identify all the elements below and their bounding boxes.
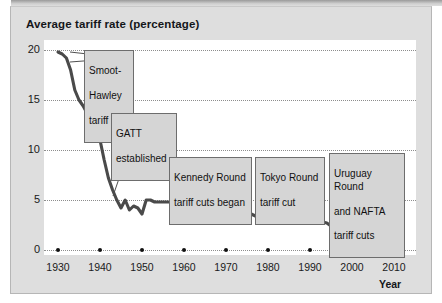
x-axis-title: Year: [379, 278, 401, 290]
annotation-line-2: and NAFTA: [334, 206, 400, 218]
annotation-line-3: tariff cuts: [334, 230, 400, 242]
x-tick-label-2010: 2010: [372, 261, 416, 273]
x-tick-label-1950: 1950: [120, 261, 164, 273]
x-tick-dot-1970: [224, 248, 228, 252]
annotation-kennedy-round[interactable]: Kennedy Round tariff cuts began: [169, 157, 252, 225]
page-title: Average tariff rate (percentage): [26, 18, 199, 30]
y-tick-label-15: 15: [10, 93, 40, 105]
x-tick-label-1940: 1940: [78, 261, 122, 273]
x-tick-label-2000: 2000: [330, 261, 374, 273]
y-tick-label-10: 10: [10, 143, 40, 155]
annotation-uruguay-nafta[interactable]: Uruguay Round and NAFTA tariff cuts: [329, 153, 405, 258]
annotation-line-1: Uruguay Round: [334, 168, 400, 193]
gridline-10: [44, 150, 416, 151]
x-tick-label-1960: 1960: [162, 261, 206, 273]
annotation-tokyo-round[interactable]: Tokyo Round tariff cut: [255, 157, 325, 225]
annotation-line-1: Kennedy Round: [174, 172, 247, 184]
figure: Average tariff rate (percentage) 20 15 1…: [0, 0, 442, 303]
x-tick-dot-1990: [308, 248, 312, 252]
x-tick-label-1970: 1970: [204, 261, 248, 273]
annotation-line-1: Tokyo Round: [260, 172, 320, 184]
x-tick-dot-1940: [98, 248, 102, 252]
x-tick-label-1980: 1980: [246, 261, 290, 273]
x-tick-dot-1980: [266, 248, 270, 252]
y-tick-label-0: 0: [10, 243, 40, 255]
annotation-line-2: established: [116, 153, 172, 165]
x-tick-label-1930: 1930: [36, 261, 80, 273]
y-tick-label-5: 5: [10, 193, 40, 205]
annotation-line-2: Hawley: [89, 90, 129, 102]
x-tick-dot-1960: [182, 248, 186, 252]
annotation-gatt-established[interactable]: GATT established: [111, 113, 177, 181]
x-tick-label-1990: 1990: [288, 261, 332, 273]
annotation-line-1: GATT: [116, 128, 172, 140]
annotation-line-2: tariff cut: [260, 197, 320, 209]
y-tick-label-20: 20: [10, 43, 40, 55]
annotation-line-1: Smoot-: [89, 65, 129, 77]
x-tick-dot-1930: [56, 248, 60, 252]
annotation-line-2: tariff cuts began: [174, 197, 247, 209]
x-tick-dot-1950: [140, 248, 144, 252]
